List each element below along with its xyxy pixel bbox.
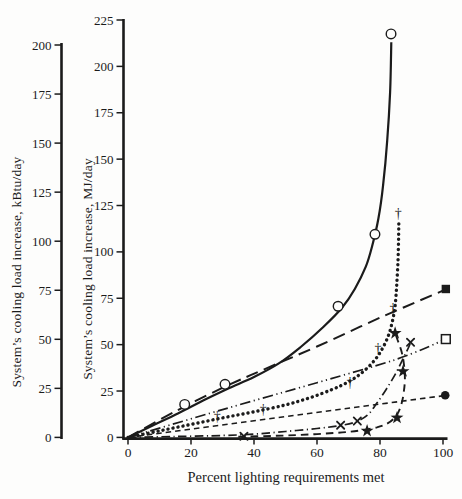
markers-filled-square-long-dash	[442, 285, 450, 293]
star-marker	[389, 326, 402, 338]
kbtu-tick-label: 75	[39, 283, 52, 298]
x-tick-label: 20	[184, 445, 198, 460]
mj-tick-label: 175	[94, 105, 114, 120]
figure-page: 0255075100125150175200025507510012515017…	[0, 0, 462, 499]
kbtu-tick-label: 150	[32, 136, 52, 151]
markers-x-dash-dot	[240, 339, 414, 440]
dagger-marker: †	[389, 301, 396, 316]
markers-open-circle-solid	[180, 29, 396, 409]
x-tick-label: 40	[247, 445, 261, 460]
mj-tick-label: 50	[101, 337, 114, 352]
mj-tick-label: 25	[101, 384, 114, 399]
series-line-dash-dot-dot	[128, 340, 444, 437]
axes	[55, 19, 448, 445]
kbtu-tick-label: 100	[32, 234, 52, 249]
kbtu-tick-label: 200	[32, 38, 52, 53]
series-open-square-dash-dot-dot	[128, 340, 444, 437]
y-axis-title-kbtu: System’s cooling load increase, kBtu/day	[9, 122, 25, 422]
filled-square-marker	[442, 285, 450, 293]
dagger-marker: †	[214, 409, 221, 424]
series-line-dash-dot	[128, 341, 411, 438]
x-cross-marker	[354, 417, 361, 424]
markers-filled-circle-short-dash	[441, 391, 450, 400]
mj-tick-label: 75	[101, 291, 114, 306]
open-circle-marker	[220, 380, 230, 390]
markers-open-square-dash-dot-dot	[441, 335, 450, 344]
mj-tick-label: 225	[94, 13, 114, 28]
kbtu-tick-label: 175	[32, 87, 52, 102]
markers-star-medium-dash	[361, 326, 410, 436]
cooling-load-chart: 0255075100125150175200025507510012515017…	[0, 0, 462, 499]
x-tick-label: 100	[433, 445, 454, 460]
open-circle-marker	[386, 29, 396, 39]
mj-tick-label: 150	[94, 152, 114, 167]
x-tick-label: 80	[373, 445, 387, 460]
mj-tick-label: 100	[94, 244, 114, 259]
dagger-marker: †	[347, 375, 354, 390]
star-marker	[391, 411, 404, 423]
x-cross-marker	[337, 422, 344, 429]
open-circle-marker	[333, 301, 343, 311]
kbtu-tick-label: 0	[45, 430, 52, 445]
dagger-marker: †	[375, 341, 382, 356]
x-axis-title: Percent lighting requirements met	[136, 469, 436, 486]
x-tick-label: 60	[310, 445, 324, 460]
star-marker	[361, 424, 374, 436]
mj-tick-label: 0	[107, 430, 114, 445]
kbtu-tick-label: 125	[32, 185, 52, 200]
dagger-marker: †	[260, 402, 267, 417]
series-x-dash-dot	[128, 341, 411, 438]
open-square-marker	[441, 335, 450, 344]
open-circle-marker	[180, 400, 190, 410]
x-tick-label: 0	[125, 445, 132, 460]
kbtu-tick-label: 25	[39, 381, 52, 396]
y-axis-title-mj: System’s cooling load increase, MJ/day	[80, 119, 96, 419]
star-marker	[397, 365, 410, 377]
mj-tick-label: 125	[94, 198, 114, 213]
mj-tick-label: 200	[94, 59, 114, 74]
open-circle-marker	[370, 229, 380, 239]
filled-circle-marker	[441, 391, 450, 400]
dagger-marker: †	[395, 206, 402, 221]
kbtu-tick-label: 50	[39, 332, 52, 347]
